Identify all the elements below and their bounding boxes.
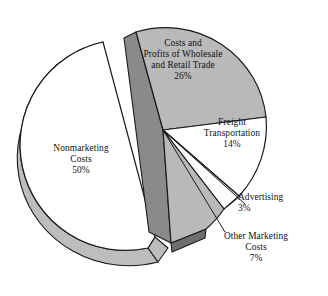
slice-label-freight-transportation: Freight Transportation 14%: [186, 117, 278, 150]
slice-label-nonmarketing-costs: Nonmarketing Costs 50%: [28, 143, 134, 176]
slice-label-advertising: Advertising 3%: [238, 192, 324, 214]
pie-chart: Costs and Profits of Wholesale and Retai…: [0, 0, 328, 296]
slice-label-other-marketing-costs: Other Marketing Costs 7%: [200, 231, 312, 264]
slice-label-wholesale-retail-trade: Costs and Profits of Wholesale and Retai…: [129, 38, 237, 82]
